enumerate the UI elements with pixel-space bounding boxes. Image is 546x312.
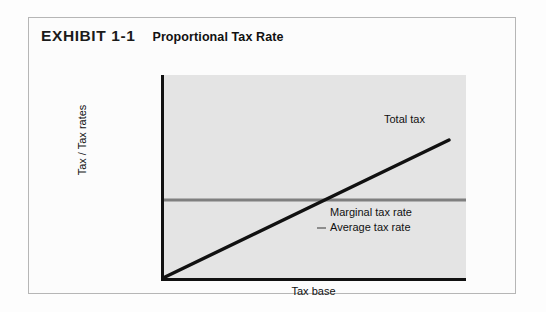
exhibit-header: EXHIBIT 1-1 Proportional Tax Rate bbox=[41, 27, 284, 45]
plot-area-background bbox=[164, 75, 466, 279]
x-axis-label: Tax base bbox=[161, 285, 466, 297]
total-tax-annotation: Total tax bbox=[384, 113, 425, 125]
y-axis-label: Tax / Tax rates bbox=[76, 65, 88, 215]
legend-label-marginal: Marginal tax rate bbox=[330, 205, 412, 220]
exhibit-frame: EXHIBIT 1-1 Proportional Tax Rate Tax / … bbox=[28, 17, 516, 294]
legend-marker-dash-icon bbox=[317, 227, 326, 229]
legend-marker-blank-icon bbox=[317, 212, 326, 214]
legend-item-average: Average tax rate bbox=[317, 220, 412, 235]
x-axis-line bbox=[161, 278, 466, 281]
exhibit-figure: EXHIBIT 1-1 Proportional Tax Rate Tax / … bbox=[0, 0, 546, 312]
rate-legend: Marginal tax rate Average tax rate bbox=[317, 205, 412, 235]
exhibit-title: Proportional Tax Rate bbox=[152, 30, 283, 44]
y-axis-line bbox=[161, 75, 164, 281]
exhibit-number-label: EXHIBIT 1-1 bbox=[41, 27, 135, 45]
legend-item-marginal: Marginal tax rate bbox=[317, 205, 412, 220]
legend-label-average: Average tax rate bbox=[330, 220, 411, 235]
